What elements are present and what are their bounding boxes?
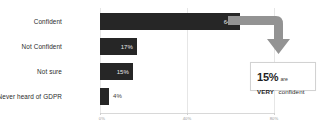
bar-value-not-confident: 17% [121, 44, 133, 50]
chart-screenshot: Confident Not Confident Not sure Never h… [0, 0, 335, 129]
category-label-never-heard-of-gdpr: Never heard of GDPR [0, 93, 62, 100]
category-label-not-confident: Not Confident [0, 43, 62, 50]
elbow-arrow [226, 10, 296, 60]
callout-confident-text: confident [278, 88, 304, 95]
elbow-arrow-icon [226, 10, 296, 60]
bar-not-sure[interactable]: 15% [100, 63, 133, 80]
bar-value-not-sure: 15% [117, 69, 129, 75]
tick-mark-40 [187, 113, 188, 115]
tick-label-0: 0% [99, 116, 105, 121]
category-label-confident: Confident [0, 18, 62, 25]
tick-label-80: 80% [270, 116, 279, 121]
callout-line-2: VERY confident [257, 80, 305, 98]
tick-mark-80 [274, 113, 275, 115]
callout-very-text: VERY [257, 88, 274, 95]
callout-box: 15%are VERY confident [250, 62, 316, 91]
bar-confident[interactable]: 64% [100, 13, 240, 30]
tick-label-40: 40% [183, 116, 192, 121]
tick-mark-0 [100, 113, 101, 115]
bar-never-heard-of-gdpr[interactable] [100, 88, 109, 105]
bar-not-confident[interactable]: 17% [100, 38, 137, 55]
category-label-not-sure: Not sure [0, 68, 62, 75]
bar-value-never-heard-of-gdpr: 4% [113, 93, 122, 99]
